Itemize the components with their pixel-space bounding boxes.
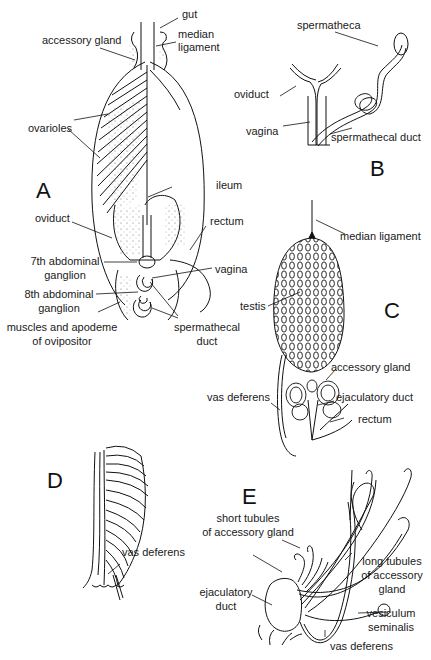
label-vagina-b: vagina xyxy=(246,125,278,137)
label-ejaculatory-duct-e-line2: duct xyxy=(192,600,260,612)
panel-a-drawing xyxy=(92,22,211,320)
label-oviduct: oviduct xyxy=(35,212,70,224)
label-testis: testis xyxy=(240,300,266,312)
label-vas-deferens-e: vas deferens xyxy=(330,640,393,652)
label-long-tubules-line2: of accessory xyxy=(352,569,431,581)
label-vesiculum-line2: seminalis xyxy=(352,621,430,633)
label-rectum: rectum xyxy=(210,215,244,227)
label-median-ligament-line1: median xyxy=(178,28,214,40)
label-accessory-gland-c: accessory gland xyxy=(331,361,411,373)
label-7th-ganglion-line2: ganglion xyxy=(25,269,105,281)
label-vas-deferens-d: vas deferens xyxy=(122,546,185,558)
label-oviduct-b: oviduct xyxy=(234,88,269,100)
label-accessory-gland: accessory gland xyxy=(42,34,122,46)
label-median-ligament-c: median ligament xyxy=(340,230,421,242)
label-7th-ganglion-line1: 7th abdominal xyxy=(25,255,105,267)
label-muscles-apodeme-line2: of ovipositor xyxy=(4,335,120,347)
label-8th-ganglion-line1: 8th abdominal xyxy=(18,288,100,300)
label-long-tubules-line1: long tubules xyxy=(352,555,431,567)
label-8th-ganglion-line2: ganglion xyxy=(18,302,100,314)
label-spermatheca: spermatheca xyxy=(297,19,361,31)
label-vesiculum-line1: vesiculum xyxy=(352,607,430,619)
label-muscles-apodeme-line1: muscles and apodeme xyxy=(4,321,120,333)
panel-d-letter: D xyxy=(47,470,63,492)
label-short-tubules-line2: of accessory gland xyxy=(196,526,300,538)
label-ejaculatory-duct-c: ejaculatory duct xyxy=(336,391,413,403)
label-median-ligament-line2: ligament xyxy=(178,41,220,53)
label-ovarioles: ovarioles xyxy=(28,122,72,134)
label-gut: gut xyxy=(182,8,197,20)
label-short-tubules-line1: short tubules xyxy=(196,512,300,524)
label-rectum-c: rectum xyxy=(358,413,392,425)
label-vagina-a: vagina xyxy=(215,263,247,275)
label-spermathecal-duct-a-line1: spermathecal xyxy=(172,321,242,333)
label-spermathecal-duct-b: spermathecal duct xyxy=(331,131,421,143)
label-spermathecal-duct-a-line2: duct xyxy=(172,335,242,347)
label-vas-deferens-c: vas deferens xyxy=(207,391,270,403)
panel-d-drawing xyxy=(83,446,148,600)
panel-b-letter: B xyxy=(370,158,385,180)
label-long-tubules-line3: gland xyxy=(352,583,431,595)
panel-c-letter: C xyxy=(384,300,400,322)
panel-a-letter: A xyxy=(36,180,51,202)
panel-e-letter: E xyxy=(242,486,257,508)
label-ejaculatory-duct-e-line1: ejaculatory xyxy=(192,586,260,598)
label-ileum: ileum xyxy=(216,179,242,191)
